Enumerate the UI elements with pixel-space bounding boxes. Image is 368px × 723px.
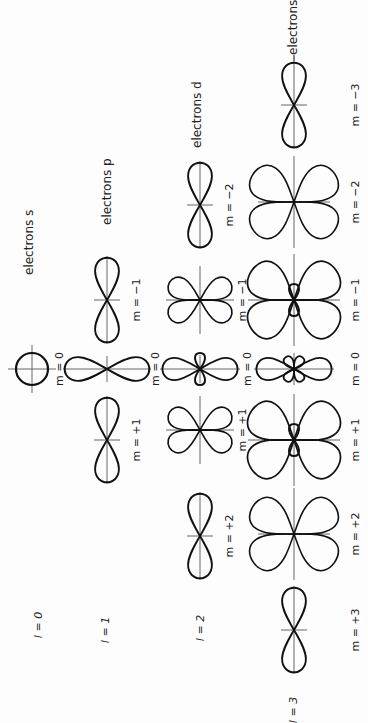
- orbital-f-m+3: [281, 586, 307, 674]
- label-m-d0: m = 0: [241, 352, 254, 386]
- label-m-f-2: m = −2: [349, 180, 362, 223]
- label-electrons-p: electrons p: [100, 158, 114, 225]
- orbital-p-m+1: [94, 396, 120, 484]
- orbital-f-m0: [254, 353, 334, 385]
- orbital-f-m+1: [241, 394, 347, 486]
- label-electrons-d: electrons d: [190, 81, 204, 148]
- orbital-f-m-1: [241, 254, 347, 346]
- label-m-f+3: m = +3: [349, 608, 362, 651]
- orbital-p-m-1: [94, 256, 120, 344]
- label-l2: l = 2: [194, 615, 207, 641]
- orbital-d-m0: [160, 353, 240, 385]
- label-m-d+2: m = +2: [223, 514, 236, 557]
- label-m-d+1: m = +1: [236, 408, 249, 451]
- orbital-f-m-3: [281, 61, 307, 149]
- label-m-f0: m = 0: [349, 352, 362, 386]
- label-electrons-f: electrons f: [286, 0, 300, 55]
- label-m-s0: m = 0: [53, 352, 66, 386]
- orbital-d-m-2: [187, 161, 213, 249]
- orbital-d-m+2: [187, 492, 213, 580]
- orbital-d-m-1: [164, 266, 236, 334]
- orbital-f-m+2: [244, 488, 345, 580]
- orbital-s-m0: [8, 345, 56, 393]
- label-electrons-s: electrons s: [22, 210, 36, 275]
- label-m-f+1: m = +1: [349, 418, 362, 461]
- label-m-f+2: m = +2: [349, 512, 362, 555]
- orbital-p-m0: [63, 356, 151, 382]
- label-m-p+1: m = +1: [130, 418, 143, 461]
- label-m-p0: m = 0: [149, 352, 162, 386]
- label-m-f-3: m = −3: [349, 83, 362, 126]
- label-m-d-2: m = −2: [223, 183, 236, 226]
- orbital-f-m-2: [244, 156, 345, 248]
- orbital-d-m+1: [164, 396, 236, 464]
- label-l0: l = 0: [32, 612, 45, 638]
- label-l3: l = 3: [287, 697, 300, 723]
- orbital-diagram: electrons s electrons p electrons d elec…: [0, 0, 368, 723]
- label-m-f-1: m = −1: [349, 278, 362, 321]
- label-m-d-1: m = −1: [236, 278, 249, 321]
- label-l1: l = 1: [99, 617, 112, 643]
- label-m-p-1: m = −1: [130, 278, 143, 321]
